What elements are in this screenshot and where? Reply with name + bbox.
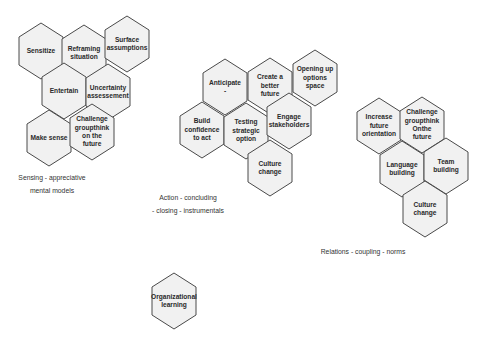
cluster-caption-sensing: mental models bbox=[2, 186, 102, 195]
cluster-sensing bbox=[19, 16, 149, 166]
cluster-learning bbox=[152, 273, 196, 329]
cluster-relations bbox=[357, 97, 468, 237]
cluster-caption-action: - closing - instrumentals bbox=[138, 206, 238, 215]
cluster-caption-action: Action - concluding bbox=[138, 193, 238, 202]
hexagon-learning-0 bbox=[152, 273, 196, 329]
hexagon-diagram: SensitizeReframing situationSurface assu… bbox=[0, 0, 489, 353]
cluster-caption-relations: Relations - coupling - norms bbox=[313, 247, 413, 256]
hexagon-action-2 bbox=[293, 50, 337, 106]
hexagon-sensing-2 bbox=[105, 16, 149, 72]
cluster-action bbox=[180, 50, 337, 196]
cluster-caption-sensing: Sensing - appreciative bbox=[2, 173, 102, 182]
